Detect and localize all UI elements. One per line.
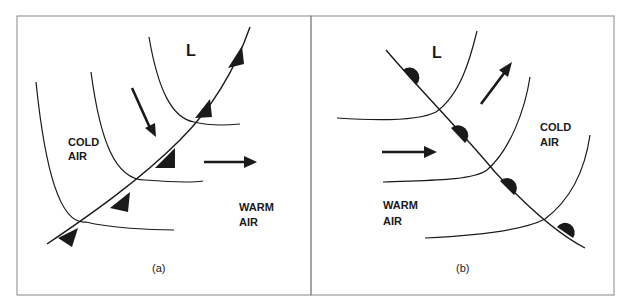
isobar-b-1 — [337, 31, 477, 120]
low-label-b: L — [432, 44, 442, 61]
arrowhead — [244, 156, 257, 168]
arrow-b-northeast — [481, 72, 505, 104]
panel-b-border — [311, 16, 614, 295]
cold-air-label-b-line1: COLD — [540, 121, 571, 133]
front-triangle — [110, 192, 130, 212]
caption-a: (a) — [152, 262, 165, 274]
cold-air-label-a-line1: COLD — [68, 136, 99, 148]
frontal-diagram: L COLD AIR WARM AIR (a) L COLD AIR WARM … — [0, 0, 622, 306]
arrow-a-south — [132, 88, 150, 128]
warm-air-label-b-line2: AIR — [383, 215, 402, 227]
arrowhead — [424, 146, 437, 158]
front-triangle — [58, 228, 78, 247]
front-triangle — [195, 99, 212, 118]
isobar-a-1 — [36, 82, 174, 230]
front-triangle — [228, 46, 244, 68]
arrowhead — [145, 123, 156, 137]
cold-air-label-b-line2: AIR — [540, 136, 559, 148]
arrowhead — [499, 62, 512, 77]
caption-b: (b) — [456, 262, 469, 274]
front-triangle — [155, 148, 175, 168]
panel-a-arrows — [132, 88, 257, 168]
warm-air-label-a-line2: AIR — [239, 216, 258, 228]
front-semicircle — [403, 68, 419, 85]
warm-air-label-b-line1: WARM — [383, 199, 418, 211]
front-semicircle — [451, 125, 468, 143]
warm-air-label-a-line1: WARM — [239, 201, 274, 213]
low-label-a: L — [186, 42, 196, 59]
cold-air-label-a-line2: AIR — [68, 150, 87, 162]
panel-b-arrows — [382, 62, 512, 158]
front-semicircle — [500, 178, 517, 195]
